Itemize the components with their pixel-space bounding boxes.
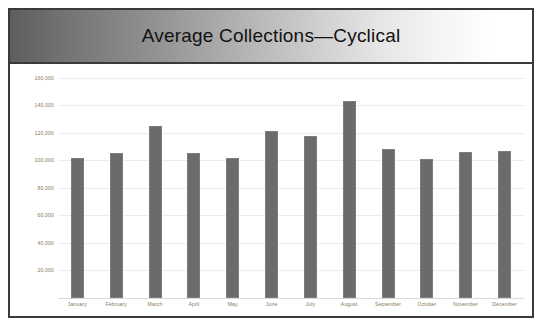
bar[interactable] (71, 158, 84, 298)
y-axis-tick-label: 60,000 (38, 212, 54, 218)
bar[interactable] (382, 149, 395, 298)
bar-slot (407, 64, 446, 298)
x-axis-tick-label: June (252, 298, 291, 316)
y-axis-tick-label: 160,000 (35, 75, 54, 81)
bar[interactable] (149, 126, 162, 298)
bar[interactable] (110, 153, 123, 298)
screenshot-root: Average Collections—Cyclical 20,00040,00… (0, 0, 542, 326)
x-axis-tick-label: December (485, 298, 524, 316)
bar[interactable] (420, 159, 433, 298)
bar-slot (252, 64, 291, 298)
x-axis-tick-label: February (97, 298, 136, 316)
bar-slot (330, 64, 369, 298)
bar-slot (136, 64, 175, 298)
x-axis-tick-label: September (369, 298, 408, 316)
bar[interactable] (459, 152, 472, 298)
y-axis-tick-label: 80,000 (38, 185, 54, 191)
bar-slot (174, 64, 213, 298)
x-axis-tick-label: May (213, 298, 252, 316)
bar-slot (369, 64, 408, 298)
bar[interactable] (265, 131, 278, 298)
bar-slot (446, 64, 485, 298)
bar[interactable] (343, 101, 356, 298)
bar-slot (97, 64, 136, 298)
y-axis-tick-label: 120,000 (35, 130, 54, 136)
x-axis-tick-label: January (58, 298, 97, 316)
chart-title-band: Average Collections—Cyclical (10, 10, 532, 64)
bar[interactable] (304, 136, 317, 298)
bar-slot (58, 64, 97, 298)
x-axis-tick-label: November (446, 298, 485, 316)
x-axis-tick-label: July (291, 298, 330, 316)
y-axis-tick-label: 40,000 (38, 240, 54, 246)
bar[interactable] (498, 151, 511, 298)
y-axis-tick-label: 100,000 (35, 157, 54, 163)
y-axis-tick-label: 20,000 (38, 267, 54, 273)
bar[interactable] (226, 158, 239, 298)
bar-slot (213, 64, 252, 298)
y-axis-tick-label: 140,000 (35, 102, 54, 108)
chart-title: Average Collections—Cyclical (142, 25, 401, 47)
chart-frame: Average Collections—Cyclical 20,00040,00… (8, 8, 534, 318)
x-axis-tick-label: April (174, 298, 213, 316)
plot-region: 20,00040,00060,00080,000100,000120,00014… (10, 64, 532, 316)
x-axis-tick-label: August (330, 298, 369, 316)
x-axis-tick-label: March (136, 298, 175, 316)
bars-area (58, 64, 524, 298)
bar-slot (485, 64, 524, 298)
bar-slot (291, 64, 330, 298)
bar[interactable] (187, 153, 200, 298)
x-axis-tick-label: October (407, 298, 446, 316)
x-axis: JanuaryFebruaryMarchAprilMayJuneJulyAugu… (58, 298, 524, 316)
plot-inner: 20,00040,00060,00080,000100,000120,00014… (10, 64, 532, 316)
y-axis: 20,00040,00060,00080,000100,000120,00014… (10, 64, 58, 316)
